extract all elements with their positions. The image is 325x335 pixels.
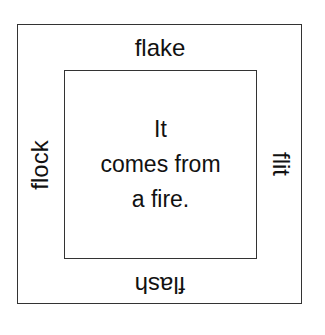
word-left: flock (28, 140, 52, 189)
center-clue: It comes from a fire. (100, 112, 220, 217)
inner-box: It comes from a fire. (64, 70, 257, 259)
word-bottom: flash (135, 273, 186, 297)
clue-line-2: comes from (100, 147, 220, 182)
clue-line-1: It (100, 112, 220, 147)
word-right: flit (269, 152, 293, 176)
clue-line-3: a fire. (100, 182, 220, 217)
word-top: flake (135, 36, 186, 60)
